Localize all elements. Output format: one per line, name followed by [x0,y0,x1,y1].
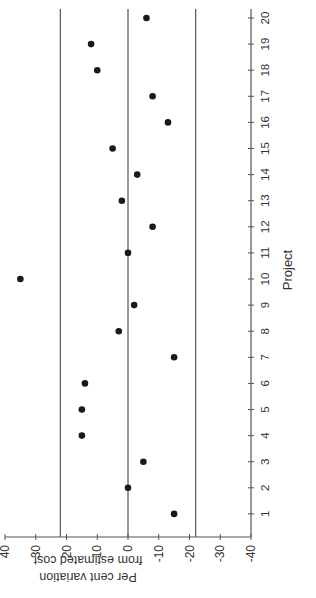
data-point-project-4 [79,432,86,439]
project-tick-label: 8 [259,328,271,334]
project-tick-label: 9 [259,302,271,308]
data-point-project-6 [82,380,89,387]
data-point-project-15 [109,145,116,152]
project-tick-label: 20 [259,12,271,25]
percent-axis-label-line1: Per cent variation [39,570,136,584]
data-point-project-5 [79,406,86,413]
scatter-chart: 403020100-10-20-30-40 123456789101112131… [0,0,316,598]
percent-tick-label: 0 [121,545,135,552]
project-tick-label: 17 [259,90,271,103]
data-point-project-7 [171,354,178,361]
data-point-project-11 [125,250,132,257]
data-point-project-2 [125,485,132,492]
data-point-project-20 [143,15,150,22]
data-point-project-16 [165,119,172,126]
data-point-project-17 [149,93,156,100]
reference-lines [60,9,195,537]
project-tick-label: 19 [259,38,271,51]
data-point-project-8 [115,328,122,335]
data-point-project-12 [149,224,156,231]
percent-tick-label: -20 [183,545,197,563]
project-tick-label: 18 [259,64,271,77]
project-tick-label: 16 [259,116,271,129]
percent-axis-label-line2: from estimated cost [33,553,143,567]
data-point-project-18 [94,67,101,74]
project-tick-label: 6 [259,380,271,386]
data-point-project-9 [131,302,138,309]
percent-tick-label: -40 [244,545,258,563]
project-tick-label: 14 [259,168,271,181]
project-tick-label: 12 [259,220,271,233]
data-point-project-14 [134,171,141,178]
data-point-project-1 [171,511,178,518]
percent-tick-label: -30 [213,545,227,563]
percent-tick-label: 40 [0,545,12,559]
project-tick-label: 15 [259,142,271,155]
project-tick-label: 13 [259,194,271,207]
data-point-project-13 [119,197,126,204]
project-tick-label: 10 [259,273,271,286]
data-point-project-19 [88,41,95,48]
percent-tick-label: -10 [152,545,166,563]
project-axis-label: Project [280,249,295,290]
data-point-project-10 [17,276,24,283]
project-tick-label: 7 [259,354,271,360]
data-points [17,15,177,518]
project-tick-label: 2 [259,485,271,491]
project-tick-label: 11 [259,247,271,259]
project-tick-label: 1 [259,511,271,517]
project-tick-label: 3 [259,458,271,464]
project-tick-label: 5 [259,406,271,412]
project-tick-label: 4 [259,432,271,439]
data-point-project-3 [140,458,147,465]
